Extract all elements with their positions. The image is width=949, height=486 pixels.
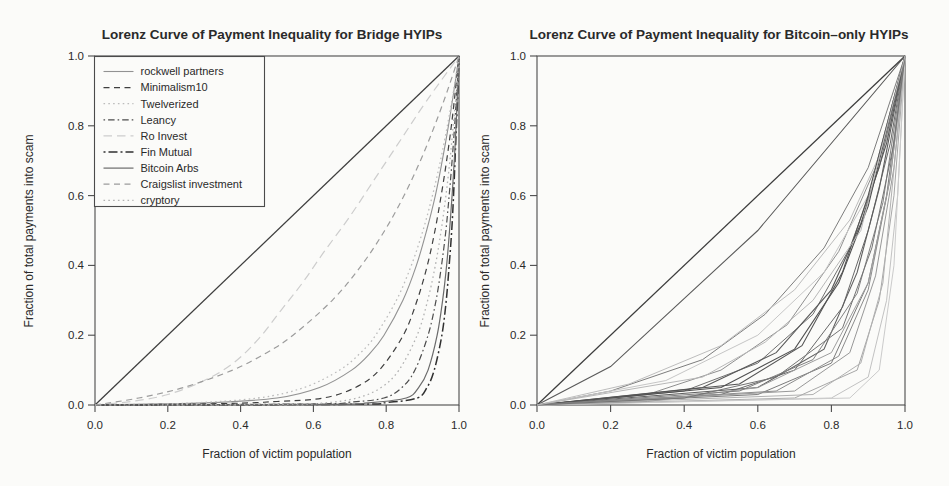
legend-label: Bitcoin Arbs	[141, 162, 200, 174]
bridge-y-axis-label: Fraction of total payments into scam	[22, 135, 36, 328]
x-tick-label: 0.8	[823, 419, 839, 431]
legend-label: Ro Invest	[141, 130, 187, 142]
legend-label: Minimalism10	[141, 81, 208, 93]
x-tick-label: 0.2	[160, 419, 176, 431]
y-tick-label: 0.0	[510, 399, 526, 411]
y-tick-label: 0.2	[68, 329, 84, 341]
bitcoin-y-axis-label: Fraction of total payments into scam	[478, 135, 492, 328]
bridge-chart-title: Lorenz Curve of Payment Inequality for B…	[102, 27, 443, 42]
x-tick-label: 0.4	[676, 419, 693, 431]
x-tick-label: 1.0	[897, 419, 913, 431]
lorenz-charts-canvas: Lorenz Curve of Payment Inequality for B…	[0, 0, 949, 486]
x-tick-label: 0.0	[87, 419, 103, 431]
y-tick-label: 0.0	[68, 399, 84, 411]
x-tick-label: 0.8	[378, 419, 394, 431]
bitcoin-x-axis-label: Fraction of victim population	[646, 447, 795, 461]
legend-label: Fin Mutual	[141, 146, 192, 158]
legend: rockwell partnersMinimalism10Twelverized…	[95, 57, 265, 207]
x-tick-label: 0.6	[305, 419, 321, 431]
y-tick-label: 0.8	[510, 120, 526, 132]
x-tick-label: 0.0	[529, 419, 545, 431]
y-tick-label: 1.0	[68, 50, 84, 62]
y-tick-label: 0.6	[510, 190, 526, 202]
y-tick-label: 0.4	[510, 259, 527, 271]
legend-label: cryptory	[141, 194, 181, 206]
legend-label: Twelverized	[141, 98, 199, 110]
x-tick-label: 0.6	[750, 419, 766, 431]
lorenz-figure: Lorenz Curve of Payment Inequality for B…	[0, 0, 949, 486]
legend-label: Craigslist investment	[141, 178, 242, 190]
bridge-x-axis-label: Fraction of victim population	[202, 447, 351, 461]
y-tick-label: 0.8	[68, 120, 84, 132]
x-tick-label: 0.4	[233, 419, 250, 431]
y-tick-label: 0.4	[68, 259, 85, 271]
legend-label: rockwell partners	[141, 65, 225, 77]
bitcoin-chart-title: Lorenz Curve of Payment Inequality for B…	[530, 27, 909, 42]
x-tick-label: 0.2	[603, 419, 619, 431]
y-tick-label: 0.6	[68, 190, 84, 202]
y-tick-label: 0.2	[510, 329, 526, 341]
legend-label: Leancy	[141, 114, 177, 126]
bridge-panel: 0.00.20.40.60.81.00.00.20.40.60.81.0rock…	[68, 50, 467, 431]
y-tick-label: 1.0	[510, 50, 526, 62]
bitcoin-panel: 0.00.20.40.60.81.00.00.20.40.60.81.0	[510, 50, 913, 431]
x-tick-label: 1.0	[451, 419, 467, 431]
